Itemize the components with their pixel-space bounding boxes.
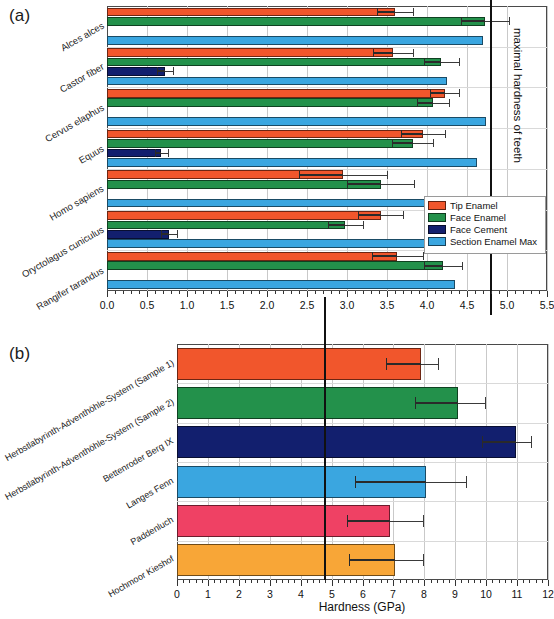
legend-swatch <box>428 225 446 234</box>
category-label: Cervus elaphus <box>43 102 106 145</box>
legend-item: Tip Enamel <box>428 200 542 211</box>
legend-item: Face Enamel <box>428 212 542 223</box>
panel-b-category-labels: Herbstlabyrinth-Adventhöhle-System (Samp… <box>0 330 553 590</box>
panel-a-reference-label: maximal hardness of teeth <box>512 28 524 163</box>
category-label: Hochmoor Kieshof <box>106 554 175 600</box>
legend-label: Tip Enamel <box>450 201 498 210</box>
legend-item: Face Cement <box>428 224 542 235</box>
category-label: Homo sapiens <box>48 183 106 223</box>
category-label: Alces alces <box>59 20 106 54</box>
legend-swatch <box>428 237 446 246</box>
category-label: Rangifer tarandus <box>35 264 106 311</box>
legend-label: Face Cement <box>450 225 507 234</box>
panel-a-category-labels: Alces alcesCastor fiberCervus elaphusEqu… <box>0 0 553 320</box>
legend-swatch <box>428 201 446 210</box>
legend: Tip EnamelFace EnamelFace CementSection … <box>424 196 546 254</box>
legend-swatch <box>428 213 446 222</box>
category-label: Castor fiber <box>58 61 106 95</box>
legend-item: Section Enamel Max <box>428 236 542 247</box>
category-label: Equus <box>77 142 106 165</box>
category-label: Paddenluch <box>129 515 175 547</box>
legend-label: Section Enamel Max <box>450 237 537 246</box>
category-label: Langes Fenn <box>125 475 176 510</box>
category-label: Bettenroder Berg IX <box>102 436 176 484</box>
panel-b-x-axis-title: Hardness (GPa) <box>319 600 406 614</box>
legend-label: Face Enamel <box>450 213 506 222</box>
